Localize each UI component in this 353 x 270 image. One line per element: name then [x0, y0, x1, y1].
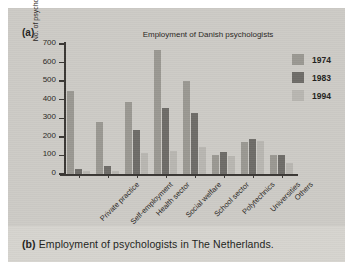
caption-body: Employment of psychologists in The Nethe…: [39, 238, 274, 250]
bar-1974-others: [270, 155, 278, 175]
bar-1983-others: [278, 155, 286, 174]
bar-1983-polytechnics: [220, 152, 228, 174]
x-tick: [224, 174, 226, 178]
bar-1994-self-employment: [112, 171, 120, 174]
y-tick-label: 600: [26, 58, 56, 66]
y-tick-label: 200: [26, 132, 56, 140]
legend-item-1974: 1974: [292, 54, 331, 65]
legend-label: 1994: [312, 91, 331, 101]
caption-label-b: (b): [22, 238, 36, 250]
y-tick-label: 0: [26, 169, 56, 177]
bar-1974-private-practice: [67, 91, 75, 174]
bar-1983-self-employment: [104, 166, 112, 174]
bar-group: [270, 44, 294, 174]
legend-item-1994: 1994: [292, 90, 331, 101]
legend-swatch-icon: [292, 90, 304, 101]
legend-label: 1983: [312, 73, 331, 83]
bar-1994-social-welfare: [170, 151, 178, 174]
figure-caption: (b) Employment of psychologists in The N…: [8, 226, 345, 262]
bar-1974-social-welfare: [154, 50, 162, 174]
y-tick-label: 300: [26, 113, 56, 121]
x-tick: [253, 174, 255, 178]
chart-legend: 197419831994: [292, 54, 331, 101]
y-tick-label: 400: [26, 95, 56, 103]
bar-1994-universities: [257, 141, 265, 174]
bar-1983-health-sector: [133, 130, 141, 174]
bar-group: [241, 44, 265, 174]
bar-group: [212, 44, 236, 174]
x-tick: [282, 174, 284, 178]
plot-area: [64, 44, 296, 174]
y-axis-label: No. of psychologists: [32, 0, 39, 62]
bar-1994-school-sector: [199, 147, 207, 174]
bar-1994-private-practice: [83, 171, 91, 174]
x-tick: [108, 174, 110, 178]
bar-series-container: [64, 44, 296, 174]
bar-1974-health-sector: [125, 102, 133, 174]
x-tick: [166, 174, 168, 178]
bar-1974-self-employment: [96, 122, 104, 174]
y-tick-label: 500: [26, 76, 56, 84]
bar-1974-universities: [241, 142, 249, 175]
bar-1994-health-sector: [141, 153, 149, 174]
bar-1983-social-welfare: [162, 108, 170, 174]
bar-1974-polytechnics: [212, 155, 220, 174]
bar-group: [125, 44, 149, 174]
caption-text: (b) Employment of psychologists in The N…: [22, 238, 274, 250]
x-tick: [195, 174, 197, 178]
bar-1983-universities: [249, 139, 257, 174]
chart-title: Employment of Danish psychologists: [118, 30, 298, 39]
bar-1983-school-sector: [191, 113, 199, 174]
y-tick-label: 700: [26, 39, 56, 47]
legend-item-1983: 1983: [292, 72, 331, 83]
legend-swatch-icon: [292, 72, 304, 83]
bar-group: [96, 44, 120, 174]
x-tick: [137, 174, 139, 178]
bar-1994-polytechnics: [228, 156, 236, 174]
figure-container: (a) Employment of Danish psychologists N…: [8, 8, 345, 262]
chart-panel: (a) Employment of Danish psychologists N…: [8, 8, 345, 226]
bar-group: [154, 44, 178, 174]
bar-group: [183, 44, 207, 174]
x-axis-line: [60, 174, 298, 176]
y-tick-label: 100: [26, 150, 56, 158]
bar-group: [67, 44, 91, 174]
bar-1994-others: [286, 163, 294, 174]
legend-label: 1974: [312, 55, 331, 65]
x-tick: [79, 174, 81, 178]
bar-1983-private-practice: [75, 169, 83, 174]
bar-1974-school-sector: [183, 81, 191, 174]
legend-swatch-icon: [292, 54, 304, 65]
